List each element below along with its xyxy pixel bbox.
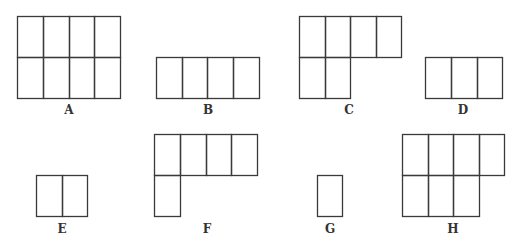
grid-cell — [429, 176, 454, 217]
grid-cell — [478, 58, 503, 99]
grid-cell — [70, 58, 95, 99]
grid-cell — [95, 17, 121, 58]
grid-cell — [300, 17, 326, 58]
shape-label-c: C — [344, 104, 354, 116]
shape-a — [18, 17, 121, 99]
shapes-drawing — [0, 0, 532, 249]
grid-cell — [351, 17, 377, 58]
grid-cell — [326, 17, 351, 58]
grid-cell — [403, 176, 429, 217]
grid-cell — [426, 58, 452, 99]
grid-cell — [377, 17, 402, 58]
grid-cell — [480, 135, 505, 176]
grid-cell — [183, 58, 208, 99]
grid-cell — [452, 58, 478, 99]
grid-cell — [326, 58, 351, 99]
grid-cell — [70, 17, 95, 58]
shape-label-h: H — [447, 223, 458, 235]
grid-cell — [18, 17, 44, 58]
grid-cell — [208, 58, 234, 99]
grid-cell — [155, 176, 181, 217]
shape-label-a: A — [64, 104, 73, 116]
grid-cell — [429, 135, 454, 176]
shape-label-f: F — [203, 223, 212, 235]
grid-cell — [232, 135, 258, 176]
grid-cell — [454, 135, 480, 176]
shape-e — [37, 176, 88, 217]
shape-d — [426, 58, 503, 99]
grid-cell — [454, 176, 480, 217]
shape-f — [155, 135, 258, 217]
shape-label-b: B — [203, 104, 213, 116]
grid-cell — [155, 135, 181, 176]
grid-cell — [234, 58, 260, 99]
grid-cell — [207, 135, 232, 176]
shape-g — [318, 176, 343, 217]
grid-cell — [300, 58, 326, 99]
grid-cell — [37, 176, 63, 217]
grid-cell — [95, 58, 121, 99]
grid-cell — [318, 176, 343, 217]
grid-cell — [18, 58, 44, 99]
shape-h — [403, 135, 505, 217]
grid-cell — [157, 58, 183, 99]
grid-cell — [181, 135, 207, 176]
grid-cell — [403, 135, 429, 176]
grid-cell — [44, 58, 70, 99]
shape-label-d: D — [458, 104, 468, 116]
shape-b — [157, 58, 260, 99]
figure-canvas: A B C D E F G H — [0, 0, 532, 249]
shape-label-g: G — [325, 223, 335, 235]
grid-cell — [44, 17, 70, 58]
grid-cell — [63, 176, 88, 217]
shape-c — [300, 17, 402, 99]
shape-label-e: E — [57, 223, 66, 235]
